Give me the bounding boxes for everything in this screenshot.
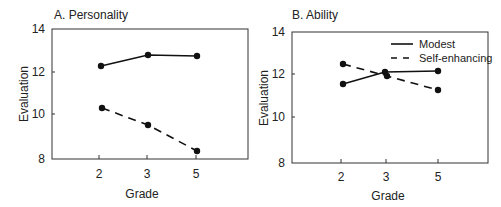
- panel-title: B. Ability: [292, 8, 338, 22]
- x-ticks: [341, 159, 438, 163]
- x-axis-label: Grade: [371, 189, 405, 203]
- svg-text:14: 14: [272, 25, 286, 39]
- x-tick-labels: 2 3 5: [96, 167, 200, 181]
- panel-personality: A. Personality 14 12 10 8 2 3 5 Grade Ev…: [17, 8, 248, 201]
- svg-text:5: 5: [435, 170, 442, 184]
- svg-text:5: 5: [193, 167, 200, 181]
- x-axis-label: Grade: [125, 187, 159, 201]
- x-ticks: [99, 155, 196, 159]
- svg-text:14: 14: [32, 22, 46, 36]
- svg-text:3: 3: [383, 170, 390, 184]
- svg-text:12: 12: [272, 67, 286, 81]
- series-self-enhancing: [340, 61, 441, 93]
- series-modest: [98, 52, 200, 69]
- y-axis-label: Evaluation: [17, 66, 31, 122]
- x-tick-labels: 2 3 5: [338, 170, 442, 184]
- svg-text:8: 8: [278, 156, 285, 170]
- y-tick-labels: 14 12 10 8: [272, 25, 286, 170]
- y-axis-label: Evaluation: [257, 70, 271, 126]
- legend-label-self-enhancing: Self-enhancing: [419, 52, 492, 64]
- legend-label-modest: Modest: [419, 38, 455, 50]
- figure: A. Personality 14 12 10 8 2 3 5 Grade Ev…: [0, 0, 501, 207]
- svg-text:3: 3: [144, 167, 151, 181]
- svg-text:10: 10: [32, 107, 46, 121]
- panel-title: A. Personality: [54, 8, 128, 22]
- svg-text:2: 2: [96, 167, 103, 181]
- svg-text:12: 12: [32, 65, 46, 79]
- svg-text:2: 2: [338, 170, 345, 184]
- svg-text:10: 10: [272, 110, 286, 124]
- y-tick-labels: 14 12 10 8: [32, 22, 46, 166]
- plot-frame: [52, 29, 248, 159]
- panel-ability: B. Ability 14 12 10 8 2 3 5 Grade Evalua…: [257, 8, 492, 203]
- legend: Modest Self-enhancing: [391, 38, 492, 64]
- svg-text:8: 8: [38, 152, 45, 166]
- series-self-enhancing: [99, 105, 200, 154]
